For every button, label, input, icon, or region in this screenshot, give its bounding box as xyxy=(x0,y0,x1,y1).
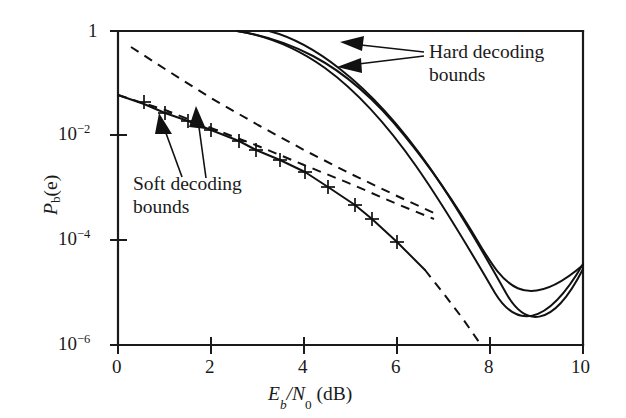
hard-leader-line-1 xyxy=(352,44,424,52)
plus-marker xyxy=(321,180,335,194)
x-tick-label-4: 4 xyxy=(298,357,308,376)
plus-marker xyxy=(273,153,287,167)
plus-marker xyxy=(204,123,218,137)
x-tick-label-2: 2 xyxy=(205,357,215,376)
curve-soft-simulation-dashed xyxy=(425,270,481,345)
soft-arrowhead-1 xyxy=(155,113,172,134)
annotation-soft-line2: bounds xyxy=(133,195,242,218)
x-axis-label-sub-0: 0 xyxy=(305,397,312,412)
hard-arrowhead-1 xyxy=(340,36,364,51)
hard-leader-arrows xyxy=(337,36,424,73)
x-tick-label-10: 10 xyxy=(571,357,590,376)
x-axis-label-E: E xyxy=(268,383,280,404)
y-axis-label-P: P xyxy=(40,203,61,215)
y-axis-label-sub: b xyxy=(48,196,63,203)
y-axis-label: Pb(e) xyxy=(40,175,62,215)
y-axis-label-tail: (e) xyxy=(40,175,61,197)
x-axis-label-unit: (dB) xyxy=(312,383,353,404)
y-tick-label-1e-4: 10−4 xyxy=(58,229,90,248)
y-tick-label-1e-6: 10−6 xyxy=(58,334,90,353)
plus-marker xyxy=(249,143,263,157)
annotation-hard-line2: bounds xyxy=(429,63,544,86)
annotation-soft-line1: Soft decoding xyxy=(133,172,242,195)
y-tick-label-1: 1 xyxy=(88,21,98,40)
soft-arrowhead-2 xyxy=(189,106,206,129)
plus-marker xyxy=(298,165,312,179)
y-tick-label-1e-2: 10−2 xyxy=(58,124,90,143)
annotation-hard-line1: Hard decoding xyxy=(429,40,544,63)
x-tick-label-8: 8 xyxy=(484,357,494,376)
x-axis-label-slashN: /N xyxy=(287,383,305,404)
annotation-hard-decoding: Hard decoding bounds xyxy=(429,40,544,86)
x-tick-label-0: 0 xyxy=(112,357,122,376)
x-axis-label: Eb/N0 (dB) xyxy=(268,383,352,405)
annotation-soft-decoding: Soft decoding bounds xyxy=(133,172,242,218)
x-tick-label-6: 6 xyxy=(391,357,401,376)
plus-marker xyxy=(232,134,246,148)
figure-container: 1 10−2 10−4 10−6 0 2 4 6 8 10 Pb(e) Eb/N… xyxy=(0,0,626,418)
x-axis-label-sub-b: b xyxy=(280,397,287,412)
